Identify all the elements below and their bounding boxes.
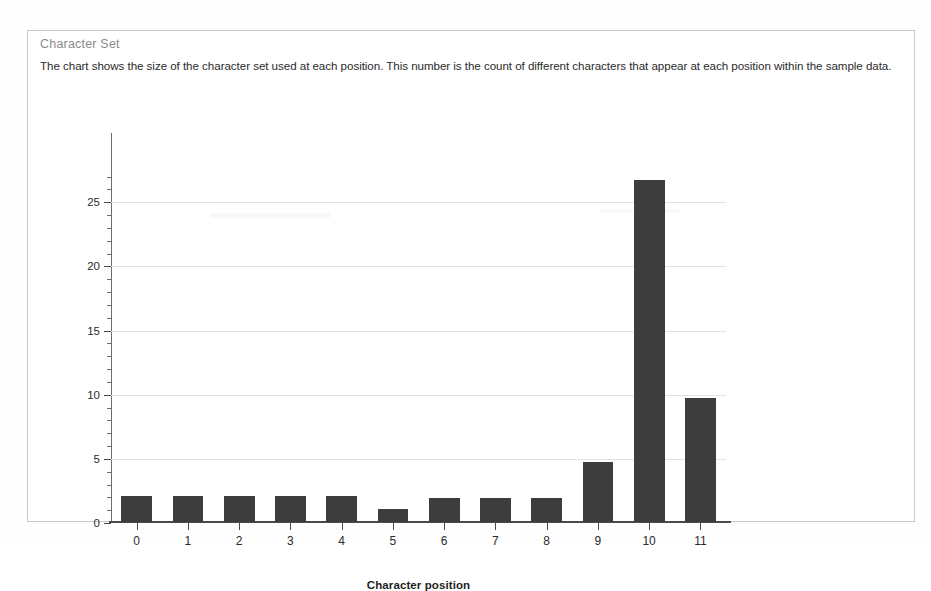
x-axis-tick (393, 523, 394, 530)
y-axis-major-tick (104, 395, 111, 396)
x-axis-tick (290, 523, 291, 530)
x-axis-tick (342, 523, 343, 530)
y-axis-tick-label: 10 (87, 389, 100, 401)
x-axis-tick-label: 7 (492, 534, 499, 548)
y-axis-minor-tick (107, 292, 111, 293)
bar[interactable] (429, 498, 460, 522)
y-axis-minor-tick (107, 433, 111, 434)
x-axis-tick-label: 3 (287, 534, 294, 548)
x-axis-tick-label: 2 (236, 534, 243, 548)
bar[interactable] (224, 496, 255, 522)
x-axis-tick-label: 10 (642, 534, 655, 548)
x-axis-tick (700, 523, 701, 530)
y-axis-major-tick (104, 459, 111, 460)
y-axis-minor-tick (107, 254, 111, 255)
bar[interactable] (634, 180, 665, 522)
bar[interactable] (121, 496, 152, 522)
bar[interactable] (480, 498, 511, 522)
y-axis-major-tick (104, 266, 111, 267)
x-axis-tick (495, 523, 496, 530)
character-set-panel: Character Set The chart shows the size o… (27, 30, 915, 522)
y-axis-minor-tick (107, 472, 111, 473)
x-axis-tick-label: 8 (543, 534, 550, 548)
x-axis-tick-label: 5 (390, 534, 397, 548)
y-axis-minor-tick (107, 305, 111, 306)
y-axis-minor-tick (107, 318, 111, 319)
x-axis-tick-label: 9 (595, 534, 602, 548)
y-axis-minor-tick (107, 215, 111, 216)
y-axis-tick-label: 15 (87, 325, 100, 337)
x-axis-tick (547, 523, 548, 530)
bar[interactable] (685, 398, 716, 522)
x-axis-tick-label: 11 (694, 534, 706, 548)
y-axis-minor-tick (107, 510, 111, 511)
y-axis-line (111, 133, 112, 523)
x-axis-tick (137, 523, 138, 530)
y-axis-minor-tick (107, 446, 111, 447)
x-axis-tick-label: 4 (338, 534, 345, 548)
x-axis-tick (444, 523, 445, 530)
bar[interactable] (378, 509, 409, 522)
y-axis-tick-label: 25 (87, 196, 100, 208)
x-axis-tick-label: 1 (185, 534, 192, 548)
y-axis-minor-tick (107, 408, 111, 409)
x-axis-tick (188, 523, 189, 530)
bar[interactable] (275, 496, 306, 522)
x-axis-tick-label: 6 (441, 534, 448, 548)
y-axis-major-tick (104, 331, 111, 332)
y-axis-minor-tick (107, 369, 111, 370)
y-axis-minor-tick (107, 228, 111, 229)
y-axis-minor-tick (107, 343, 111, 344)
x-axis-tick (649, 523, 650, 530)
x-axis-tick-label: 0 (133, 534, 140, 548)
y-axis-minor-tick (107, 189, 111, 190)
panel-description: The chart shows the size of the characte… (40, 59, 891, 72)
y-axis-minor-tick (107, 485, 111, 486)
y-axis-minor-tick (107, 497, 111, 498)
y-axis-major-tick (104, 523, 111, 524)
y-axis-minor-tick (107, 177, 111, 178)
plot-area: 051015202501234567891011 (111, 151, 726, 523)
character-set-bar-chart: 051015202501234567891011 Character posit… (40, 93, 900, 511)
x-axis-tick (239, 523, 240, 530)
page-title: Character Set (40, 37, 120, 51)
bar[interactable] (326, 496, 357, 522)
x-axis-tick (598, 523, 599, 530)
x-axis-title: Character position (111, 579, 726, 591)
y-axis-tick-label: 0 (94, 517, 100, 529)
y-axis-minor-tick (107, 241, 111, 242)
y-axis-minor-tick (107, 420, 111, 421)
y-axis-minor-tick (107, 279, 111, 280)
y-axis-tick-label: 20 (87, 260, 100, 272)
y-axis-minor-tick (107, 382, 111, 383)
bar[interactable] (531, 498, 562, 522)
y-axis-major-tick (104, 202, 111, 203)
bar[interactable] (173, 496, 204, 522)
bar[interactable] (583, 462, 614, 522)
y-axis-minor-tick (107, 356, 111, 357)
y-axis-tick-label: 5 (94, 453, 100, 465)
